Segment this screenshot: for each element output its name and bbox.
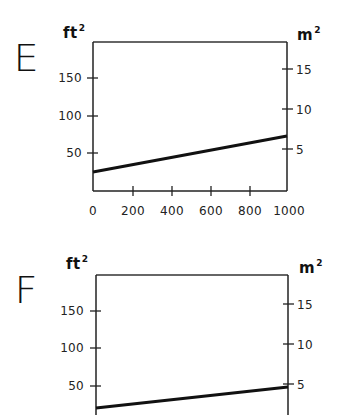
data-line-f — [96, 387, 288, 408]
x-tick-label: 1000 — [273, 204, 305, 218]
plot-area-f: 150 100 50 15 10 5 — [0, 230, 341, 415]
left-tick-label: 50 — [66, 146, 82, 160]
left-tick-label: 150 — [58, 71, 82, 85]
left-tick-label: 100 — [58, 109, 82, 123]
x-tick-label: 400 — [160, 204, 184, 218]
x-tick-label: 0 — [89, 204, 97, 218]
right-tick-label: 10 — [297, 338, 313, 352]
left-tick-label: 100 — [60, 341, 84, 355]
right-tick-label: 15 — [296, 63, 312, 77]
chart-panel-f: F ft2 m2 150 100 50 15 10 5 — [0, 230, 341, 415]
right-tick-label: 5 — [297, 378, 305, 392]
right-tick-label: 15 — [297, 298, 313, 312]
x-tick-label: 600 — [199, 204, 223, 218]
data-line-e — [93, 136, 287, 172]
left-tick-label: 50 — [68, 379, 84, 393]
plot-area-e: 150 100 50 15 10 5 0 200 400 600 800 100… — [0, 0, 341, 230]
right-tick-label: 10 — [296, 103, 312, 117]
right-tick-label: 5 — [296, 143, 304, 157]
left-tick-label: 150 — [60, 304, 84, 318]
x-tick-label: 800 — [238, 204, 262, 218]
x-tick-label: 200 — [121, 204, 145, 218]
chart-panel-e: E ft2 m2 150 100 50 15 10 5 — [0, 0, 341, 230]
